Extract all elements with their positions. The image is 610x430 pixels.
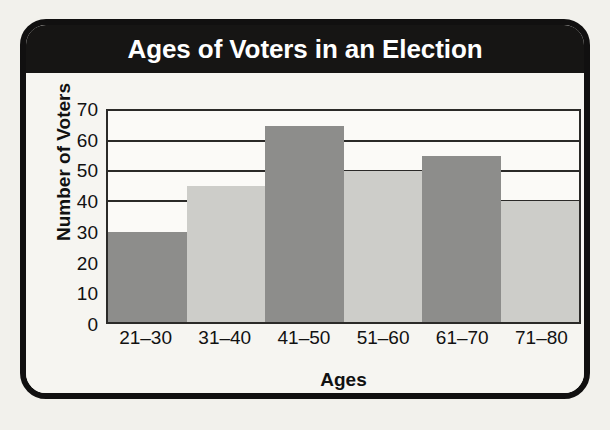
x-axis-tick-label: 21–30 [106, 327, 185, 349]
x-axis-tick-label: 61–70 [423, 327, 502, 349]
x-axis-tick-labels: 21–3031–4041–5051–6061–7071–80 [106, 327, 581, 349]
bar [422, 156, 501, 322]
x-axis-tick-label: 51–60 [344, 327, 423, 349]
plot-area [106, 109, 581, 324]
y-axis-tick-label: 60 [77, 130, 98, 149]
bar [108, 232, 187, 322]
bar [344, 171, 423, 322]
x-axis-tick-label: 31–40 [185, 327, 264, 349]
chart-title: Ages of Voters in an Election [128, 34, 483, 65]
bar [265, 126, 344, 322]
chart-card: Ages of Voters in an Election Number of … [20, 19, 590, 399]
bar [501, 201, 580, 322]
y-axis-tick-label: 20 [77, 253, 98, 272]
chart-title-banner: Ages of Voters in an Election [26, 25, 584, 73]
x-axis-tick-label: 41–50 [264, 327, 343, 349]
x-axis-tick-label: 71–80 [502, 327, 581, 349]
x-axis-title: Ages [106, 369, 581, 391]
y-axis-tick-label: 50 [77, 161, 98, 180]
y-axis-tick-labels: 706050403020100 [64, 109, 104, 324]
y-axis-tick-label: 70 [77, 100, 98, 119]
y-axis-tick-label: 40 [77, 192, 98, 211]
y-axis-tick-label: 0 [87, 315, 98, 334]
y-axis-tick-label: 10 [77, 284, 98, 303]
bar-series [108, 111, 579, 322]
chart-plot-region: Number of Voters 706050403020100 21–3031… [26, 73, 584, 393]
y-axis-tick-label: 30 [77, 222, 98, 241]
bar [187, 186, 266, 322]
